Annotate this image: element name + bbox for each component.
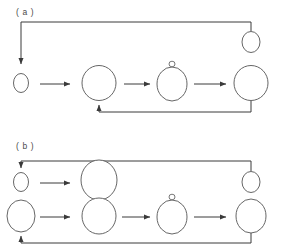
recycle-loop-b-top <box>21 161 251 171</box>
cell-b-top-1 <box>14 173 29 192</box>
cell-a4 <box>234 66 268 101</box>
cell-a3 <box>157 67 187 101</box>
panel-b-label: ( b ) <box>16 141 34 151</box>
panel-b: ( b ) <box>7 141 266 243</box>
cell-b-bot-2 <box>82 198 116 234</box>
cell-b-bot-4 <box>236 199 266 233</box>
cell-cycle-diagram: ( a ) ( b ) <box>0 0 282 250</box>
figure-root: ( a ) ( b ) <box>0 0 282 250</box>
cell-a2 <box>82 66 116 101</box>
cell-a1 <box>14 74 29 93</box>
feedback-loop-b-bottom <box>21 233 251 243</box>
recycle-loop-a-top <box>21 22 251 64</box>
cell-b-bot-3 <box>157 200 187 234</box>
panel-a-label: ( a ) <box>16 7 34 17</box>
feedback-loop-a-bottom <box>99 101 251 112</box>
bud-on-cell-b-bot-3 <box>169 194 175 200</box>
bud-on-cell-a3 <box>169 61 175 67</box>
cell-b-bot-1 <box>7 200 35 232</box>
panel-a: ( a ) <box>14 7 269 112</box>
cell-b-top-2 <box>81 160 117 200</box>
cell-a5 <box>242 32 260 53</box>
cell-b-top-3 <box>242 172 260 193</box>
